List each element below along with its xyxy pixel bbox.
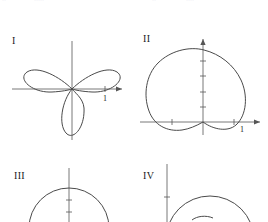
plot-panel-i: I 1 [0,25,134,140]
x-tick-label-i: 1 [103,94,107,103]
circle-curve-iv [166,196,254,222]
cutoff-header-strip: ·· ····· ·· ···· [0,0,268,8]
figure-page: ·· ····· ·· ···· I 1 II [0,0,268,222]
inner-arc-iv [192,216,213,220]
header-fragment-a: ·· [2,0,6,4]
plot-panel-ii: II 1 [134,25,268,140]
polar-plot-ii: 1 [134,25,268,140]
polar-plot-i: 1 [0,25,134,140]
plot-panel-iv: IV [134,160,268,222]
y-axis-arrow-ii [200,39,205,45]
x-axis-arrow-ii [254,119,260,124]
polar-plot-iv [134,160,268,222]
header-fragment-d: ···· [186,0,194,4]
plot-panel-iii: III [0,160,134,222]
header-fragment-b: ····· [34,0,44,4]
polar-plot-iii [0,160,134,222]
header-fragment-c: ·· [152,0,156,4]
x-axis-arrow-i [116,86,122,91]
cardioid-curve-ii [146,49,245,131]
x-tick-label-ii: 1 [240,125,244,134]
